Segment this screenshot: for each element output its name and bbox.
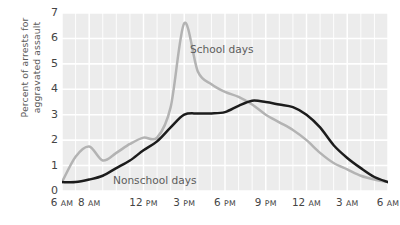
series-label-school-days: School days <box>190 43 254 55</box>
x-axis-tick-label: 6 PM <box>214 196 236 208</box>
plot-area <box>62 13 388 191</box>
x-axis-tick-label: 3 PM <box>173 196 195 208</box>
y-axis-tick-label: 1 <box>44 161 58 171</box>
y-axis-tick-label: 7 <box>44 8 58 18</box>
x-axis-tick-label: 9 PM <box>255 196 277 208</box>
chart-container: Percent of arrests for aggravated assaul… <box>0 0 400 225</box>
x-axis-tick-label: 8 AM <box>78 196 100 208</box>
y-axis-title: Percent of arrests for aggravated assaul… <box>19 0 42 142</box>
x-axis-tick-label: 12 PM <box>129 196 157 208</box>
y-axis-tick-label: 4 <box>44 84 58 94</box>
x-axis-tick-labels: 6 AM8 AM12 PM3 PM6 PM9 PM12 AM3 AM6 AM <box>62 196 388 212</box>
y-axis-tick-label: 2 <box>44 135 58 145</box>
chart-svg <box>62 13 388 191</box>
x-axis-tick-label: 12 AM <box>292 196 321 208</box>
x-axis-tick-label: 3 AM <box>336 196 358 208</box>
x-axis-tick-label: 6 AM <box>51 196 73 208</box>
x-axis-tick-label: 6 AM <box>377 196 399 208</box>
y-axis-tick-label: 0 <box>44 186 58 196</box>
series-label-nonschool-days: Nonschool days <box>113 174 196 186</box>
y-axis-tick-label: 6 <box>44 33 58 43</box>
y-axis-tick-label: 5 <box>44 59 58 69</box>
y-axis-tick-label: 3 <box>44 110 58 120</box>
y-axis-tick-labels: 01234567 <box>40 0 58 225</box>
